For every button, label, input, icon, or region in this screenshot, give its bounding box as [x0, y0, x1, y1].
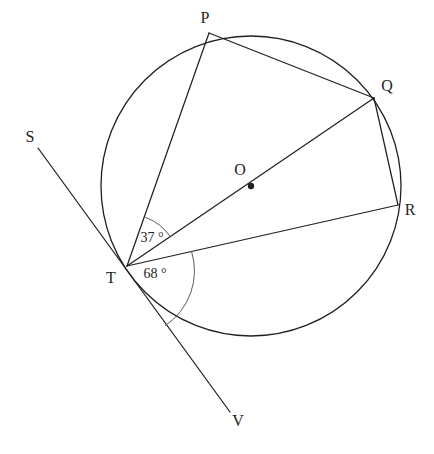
chord-QR	[374, 98, 398, 205]
point-label-o: O	[234, 161, 246, 178]
point-label-r: R	[405, 201, 416, 218]
point-label-p: P	[201, 9, 210, 26]
chord-TP	[127, 33, 209, 266]
chord-PQ	[209, 33, 374, 98]
diameter-TQ	[127, 98, 374, 266]
geometry-canvas: P Q R T O S V 37 ° 68 °	[0, 0, 434, 454]
angle-label-37: 37 °	[140, 230, 163, 245]
tangent-line-SV	[38, 148, 230, 412]
point-label-t: T	[106, 269, 116, 286]
point-label-v: V	[232, 412, 244, 429]
center-point-dot	[248, 183, 254, 189]
point-label-s: S	[26, 128, 35, 145]
geometry-figure: P Q R T O S V 37 ° 68 °	[0, 0, 434, 454]
chord-TR	[127, 205, 398, 266]
point-label-q: Q	[381, 77, 393, 94]
angle-arc-68	[165, 252, 194, 326]
angle-label-68: 68 °	[143, 266, 166, 281]
